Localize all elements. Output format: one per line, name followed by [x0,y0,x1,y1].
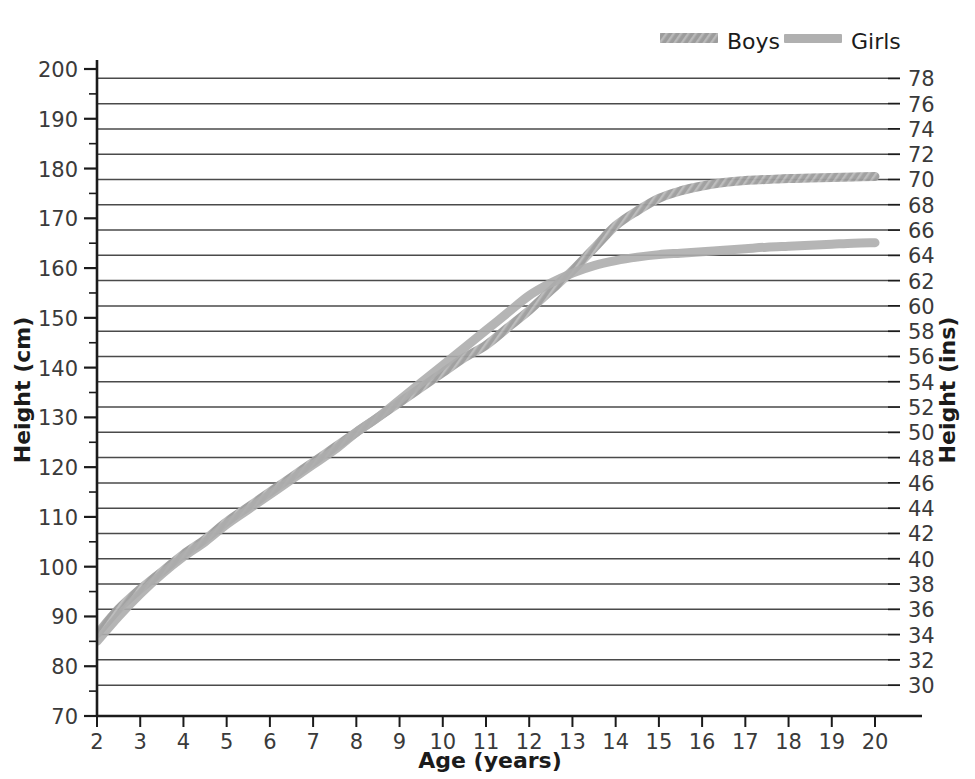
y-axis-left-tick-label: 70 [51,705,78,729]
y-axis-right-tick-label: 30 [908,674,935,698]
x-axis-tick-label: 8 [350,730,363,754]
y-axis-right-tick-label: 54 [908,371,935,395]
y-axis-right-tick-label: 66 [908,219,935,243]
legend-swatch-girls [784,34,842,43]
y-axis-right-tick-label: 56 [908,345,935,369]
y-axis-left-tick-label: 170 [38,207,78,231]
legend-label-girls: Girls [851,29,901,54]
y-axis-left-tick-label: 100 [38,556,78,580]
y-axis-right-tick-label: 46 [908,472,935,496]
growth-chart: 708090100110120130140150160170180190200 … [0,0,975,779]
x-axis-tick-label: 17 [732,730,759,754]
y-axis-right-tick-label: 44 [908,497,935,521]
y-axis-right-tick-label: 64 [908,244,935,268]
y-axis-left-tick-label: 80 [51,655,78,679]
x-axis-tick-label: 6 [263,730,276,754]
y-axis-right-tick-label: 52 [908,396,935,420]
y-axis-right-tick-label: 74 [908,118,935,142]
y-axis-right-title: Height (ins) [935,317,960,464]
x-axis-tick-label: 9 [393,730,406,754]
x-axis-tick-label: 2 [90,730,103,754]
chart-canvas: 708090100110120130140150160170180190200 … [0,0,975,779]
x-axis-tick-label: 13 [559,730,586,754]
x-axis-tick-label: 4 [177,730,190,754]
y-axis-right-tick-label: 78 [908,67,935,91]
x-axis-tick-label: 20 [862,730,889,754]
y-axis-right-tick-label: 34 [908,624,935,648]
x-axis-tick-label: 7 [306,730,319,754]
x-axis-tick-label: 5 [220,730,233,754]
x-axis-tick-label: 18 [775,730,802,754]
y-axis-left-tick-label: 110 [38,506,78,530]
y-axis-left-tick-label: 160 [38,257,78,281]
y-axis-right-tick-label: 68 [908,194,935,218]
y-axis-left-tick-label: 90 [51,605,78,629]
y-axis-left-tick-label: 140 [38,357,78,381]
y-axis-left-title: Height (cm) [10,317,35,464]
y-axis-right-tick-label: 60 [908,295,935,319]
y-axis-right-tick-label: 76 [908,93,935,117]
y-axis-right-tick-label: 58 [908,320,935,344]
chart-background [0,0,975,779]
y-axis-right-tick-label: 50 [908,421,935,445]
y-axis-right-tick-label: 32 [908,649,935,673]
y-axis-left-tick-label: 150 [38,307,78,331]
x-axis-tick-label: 3 [134,730,147,754]
y-axis-left-tick-label: 200 [38,58,78,82]
y-axis-right-tick-label: 62 [908,270,935,294]
x-axis-tick-label: 14 [602,730,629,754]
legend-swatch-boys [660,33,718,43]
y-axis-right-tick-label: 48 [908,447,935,471]
y-axis-right-tick-label: 42 [908,522,935,546]
y-axis-left-tick-label: 130 [38,406,78,430]
y-axis-right-tick-label: 36 [908,598,935,622]
y-axis-right-tick-label: 72 [908,143,935,167]
legend-label-boys: Boys [727,29,780,54]
y-axis-right-tick-label: 40 [908,548,935,572]
x-axis-tick-label: 16 [689,730,716,754]
y-axis-left-tick-label: 180 [38,158,78,182]
y-axis-right-tick-label: 38 [908,573,935,597]
x-axis-tick-label: 19 [818,730,845,754]
x-axis-title: Age (years) [418,748,562,773]
y-axis-right-tick-label: 70 [908,168,935,192]
x-axis-tick-label: 15 [646,730,673,754]
y-axis-left-tick-label: 190 [38,108,78,132]
y-axis-left-tick-label: 120 [38,456,78,480]
